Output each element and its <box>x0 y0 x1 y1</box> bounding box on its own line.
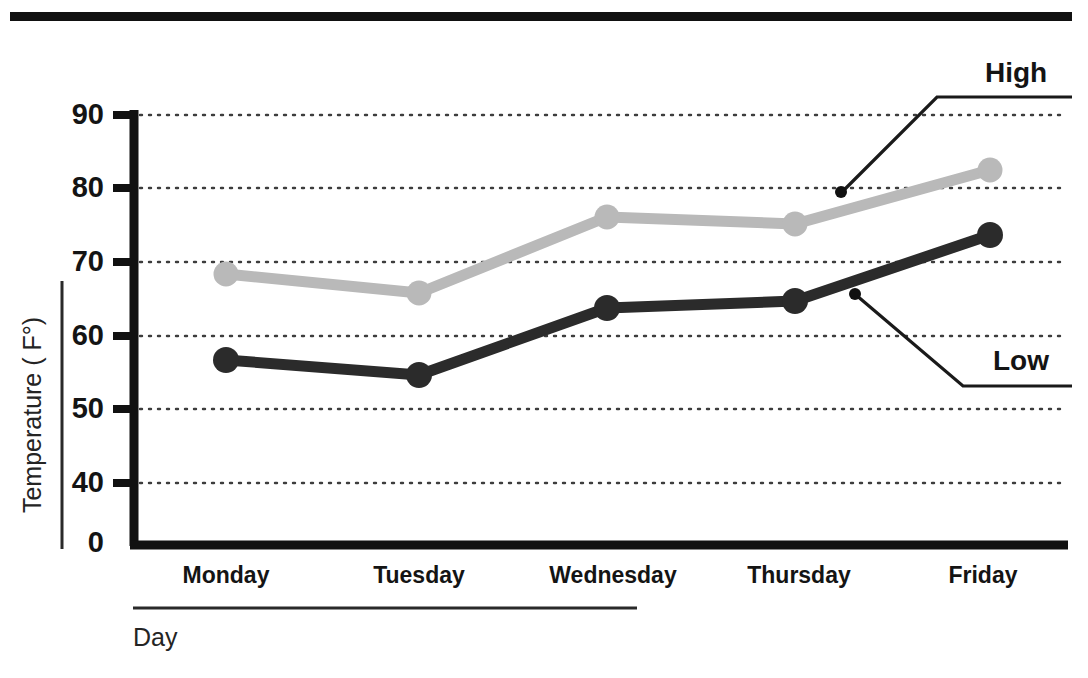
series-low-point-monday <box>213 347 239 373</box>
y-tick-labels: 90 80 70 60 50 40 0 <box>72 98 104 558</box>
x-axis-title-group: Day <box>133 608 637 651</box>
y-axis-title-group: Temperature ( F°) <box>18 281 62 549</box>
x-axis-title: Day <box>133 623 178 651</box>
x-tick-label-wednesday: Wednesday <box>549 562 677 588</box>
series-low-point-tuesday <box>406 362 432 388</box>
series-low-point-wednesday <box>594 295 620 321</box>
line-chart-plot: 90 80 70 60 50 40 0 <box>0 0 1088 678</box>
series-low <box>213 222 1003 388</box>
axes <box>113 110 1068 546</box>
x-tick-label-friday: Friday <box>948 562 1017 588</box>
annotation-low-label: Low <box>993 345 1049 376</box>
y-axis-title: Temperature ( F°) <box>18 317 46 513</box>
y-tick-label-50: 50 <box>72 392 104 424</box>
annotation-high-label: High <box>985 57 1047 88</box>
x-tick-label-thursday: Thursday <box>747 562 851 588</box>
y-tick-label-40: 40 <box>72 466 104 498</box>
series-high <box>214 158 1003 306</box>
chart-figure: 90 80 70 60 50 40 0 <box>0 0 1088 678</box>
series-low-point-friday <box>977 222 1003 248</box>
series-high-point-monday <box>214 262 239 287</box>
y-tick-label-70: 70 <box>72 245 104 277</box>
y-tick-label-80: 80 <box>72 171 104 203</box>
series-high-point-friday <box>978 158 1003 183</box>
x-tick-labels: Monday Tuesday Wednesday Thursday Friday <box>183 562 1018 588</box>
y-tick-label-60: 60 <box>72 319 104 351</box>
y-tick-label-90: 90 <box>72 98 104 130</box>
y-tick-label-0: 0 <box>88 526 104 558</box>
annotation-high-anchor-dot <box>835 186 847 198</box>
x-tick-label-tuesday: Tuesday <box>373 562 465 588</box>
series-high-point-thursday <box>783 212 808 237</box>
series-high-point-tuesday <box>407 281 432 306</box>
x-tick-label-monday: Monday <box>183 562 270 588</box>
annotation-low-anchor-dot <box>849 288 861 300</box>
series-high-point-wednesday <box>595 205 620 230</box>
series-low-point-thursday <box>782 288 808 314</box>
